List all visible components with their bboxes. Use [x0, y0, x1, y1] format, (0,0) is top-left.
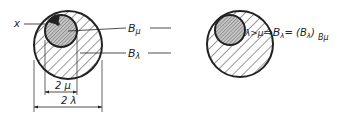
point-x [56, 22, 60, 26]
right-figure: λ>μ⇒Bλ= (Bλ)Bμ [207, 11, 328, 77]
b-mu-label: Bμ [128, 22, 141, 36]
b-lambda-label: Bλ [128, 47, 140, 61]
point-x-label: x [13, 18, 20, 29]
left-figure: x Bμ Bλ 2 μ 2 λ [13, 11, 171, 112]
inner-ball-right [215, 15, 245, 45]
outer-diameter-label: 2 λ [61, 95, 76, 106]
balls-diagram: x Bμ Bλ 2 μ 2 λ λ>μ⇒Bλ= (Bλ)Bμ [0, 0, 342, 115]
inner-diameter-label: 2 μ [55, 80, 71, 91]
